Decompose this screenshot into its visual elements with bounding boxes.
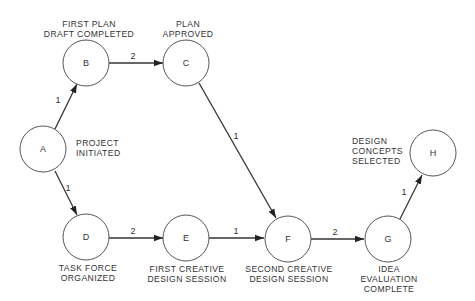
node-label: EVALUATION: [360, 274, 417, 284]
edge-weight: 1: [65, 183, 70, 193]
edge-weight: 1: [233, 226, 238, 236]
node-id: H: [430, 148, 437, 158]
node-label: TASK FORCE: [59, 263, 117, 273]
node-a: APROJECTINITIATED: [20, 126, 121, 172]
node-id: B: [83, 58, 89, 68]
node-c: CPLANAPPROVED: [163, 19, 214, 86]
node-id: E: [183, 233, 189, 243]
edge-weight: 1: [55, 95, 60, 105]
node-d: DTASK FORCEORGANIZED: [59, 214, 117, 283]
edge-a-d: 1: [55, 171, 77, 215]
arrow-icon: [55, 84, 77, 129]
edge-weight: 1: [233, 131, 238, 141]
node-label: DRAFT COMPLETED: [44, 29, 134, 39]
node-label: CONCEPTS: [352, 146, 403, 156]
edge-g-h: 1: [400, 175, 422, 219]
arrow-icon: [400, 175, 422, 219]
node-label: IDEA: [378, 264, 400, 274]
edge-f-g: 2: [311, 227, 364, 239]
edge-d-e: 2: [109, 226, 163, 238]
node-label: SECOND CREATIVE: [245, 264, 333, 274]
node-label: FIRST CREATIVE: [150, 264, 225, 274]
edge-weight: 2: [332, 227, 337, 237]
node-id: D: [83, 232, 90, 242]
node-label: SELECTED: [352, 156, 401, 166]
edge-weight: 2: [130, 51, 135, 61]
node-f: FSECOND CREATIVEDESIGN SESSION: [245, 216, 333, 284]
edge-a-b: 1: [55, 84, 77, 129]
node-g: GIDEAEVALUATIONCOMPLETE: [360, 216, 417, 294]
edge-weight: 2: [130, 226, 135, 236]
node-label: COMPLETE: [364, 284, 414, 294]
edge-b-c: 2: [109, 51, 163, 63]
node-h: HDESIGNCONCEPTSSELECTED: [352, 130, 456, 176]
node-id: G: [384, 234, 391, 244]
node-label: DESIGN: [352, 136, 387, 146]
edge-weight: 1: [401, 187, 406, 197]
edge-c-f: 1: [199, 83, 276, 218]
node-label: DESIGN SESSION: [249, 274, 328, 284]
node-id: F: [285, 234, 291, 244]
nodes-layer: APROJECTINITIATEDBFIRST PLANDRAFT COMPLE…: [20, 19, 456, 294]
node-label: FIRST PLAN: [62, 19, 116, 29]
node-label: PROJECT: [76, 138, 119, 148]
node-label: INITIATED: [76, 148, 121, 158]
arrow-icon: [199, 83, 276, 218]
arrow-icon: [55, 171, 77, 215]
edge-e-f: 1: [209, 226, 264, 238]
node-e: EFIRST CREATIVEDESIGN SESSION: [147, 215, 226, 284]
node-b: BFIRST PLANDRAFT COMPLETED: [44, 19, 134, 86]
node-id: A: [40, 144, 46, 154]
node-label: DESIGN SESSION: [147, 274, 226, 284]
node-label: PLAN: [176, 19, 200, 29]
node-id: C: [183, 58, 190, 68]
node-label: APPROVED: [163, 29, 214, 39]
node-label: ORGANIZED: [61, 273, 116, 283]
pert-network-diagram: 12121121 APROJECTINITIATEDBFIRST PLANDRA…: [0, 0, 475, 301]
